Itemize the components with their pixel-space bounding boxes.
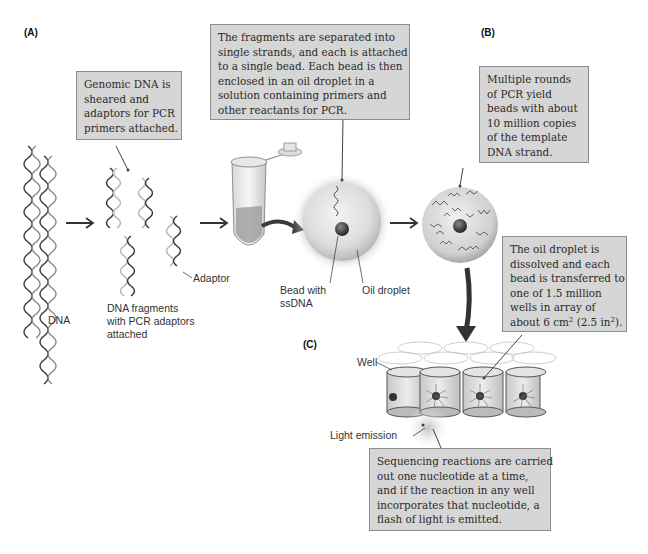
arrow-right-icon — [200, 218, 227, 228]
text-fragment: ). — [615, 316, 622, 328]
well-array — [378, 342, 556, 364]
callout-line: primers attached. — [84, 121, 174, 136]
label-line: Bead with — [280, 284, 326, 297]
callout-line: dissolved and each — [510, 257, 619, 272]
dna-fragment-icon — [107, 168, 181, 296]
callout-line: The oil droplet is — [510, 242, 619, 257]
callout-line: wells in array of — [510, 300, 619, 315]
callout-line: bead is transferred to — [510, 271, 619, 286]
well-icon — [463, 367, 503, 417]
curved-arrow-down-icon — [466, 268, 469, 332]
bead-icon — [453, 219, 467, 233]
callout-line: The fragments are separated into — [218, 30, 402, 45]
callout-line: DNA strand. — [487, 145, 581, 160]
arrow-right-icon — [390, 218, 417, 228]
callout-line: and if the reaction in any well — [377, 483, 543, 498]
callout-line: sheared and — [84, 92, 174, 107]
callout-pointer — [116, 146, 128, 170]
callout-line: beads with about — [487, 101, 581, 116]
callout-line: enclosed in an oil droplet in a — [218, 74, 402, 89]
label-light-emission: Light emission — [330, 429, 397, 442]
label-bead-with-ssdna: Bead with ssDNA — [280, 284, 326, 310]
callout-line: Sequencing reactions are carried — [377, 454, 543, 469]
callout-line: of the template — [487, 130, 581, 145]
label-line: DNA fragments — [107, 302, 195, 315]
callout-line: other reactants for PCR. — [218, 103, 402, 118]
callout-line: of PCR yield — [487, 87, 581, 102]
callout-line: incorporates that nucleotide, a — [377, 498, 543, 513]
callout-line: Genomic DNA is — [84, 77, 174, 92]
adaptor-leader-line — [183, 272, 192, 278]
test-tube-icon — [231, 143, 302, 245]
callout-line: single strands, and each is attached — [218, 45, 402, 60]
label-line: with PCR adaptors — [107, 315, 195, 328]
text-fragment: about 6 cm — [510, 316, 569, 328]
callout-line: to a single bead. Each bead is then — [218, 59, 402, 74]
label-oil-droplet: Oil droplet — [362, 284, 410, 297]
callout-line: adaptors for PCR — [84, 106, 174, 121]
text-fragment: (2.5 in — [573, 316, 610, 328]
label-adaptor: Adaptor — [193, 272, 230, 285]
callout-line: out one nucleotide at a time, — [377, 469, 543, 484]
callout-line: solution containing primers and — [218, 88, 402, 103]
well-row — [387, 367, 546, 417]
callout-line: about 6 cm2 (2.5 in2). — [510, 315, 619, 330]
callout-fragments: The fragments are separated into single … — [210, 24, 410, 120]
light-flash-icon — [406, 406, 450, 450]
label-line: attached — [107, 328, 195, 341]
curved-arrow-icon — [262, 221, 296, 228]
label-well: Well — [357, 356, 377, 369]
panel-label-a: (A) — [24, 27, 38, 38]
callout-sequencing: Sequencing reactions are carried out one… — [369, 448, 551, 531]
callout-line: flash of light is emitted. — [377, 512, 543, 527]
panel-label-b: (B) — [481, 27, 495, 38]
callout-genomic-dna: Genomic DNA is sheared and adaptors for … — [76, 71, 182, 140]
panel-label-c: (C) — [303, 339, 317, 350]
bead-icon — [335, 222, 349, 236]
callout-oil-droplet: The oil droplet is dissolved and each be… — [502, 236, 627, 332]
dna-helix-icon — [24, 146, 56, 384]
callout-line: 10 million copies — [487, 116, 581, 131]
label-line: ssDNA — [280, 297, 326, 310]
well-icon — [506, 367, 546, 417]
callout-pcr-rounds: Multiple rounds of PCR yield beads with … — [479, 66, 589, 163]
label-dna-fragments: DNA fragments with PCR adaptors attached — [107, 302, 195, 341]
callout-line: one of 1.5 million — [510, 286, 619, 301]
callout-line: Multiple rounds — [487, 72, 581, 87]
arrow-right-icon — [66, 218, 93, 228]
label-dna: DNA — [48, 314, 70, 327]
